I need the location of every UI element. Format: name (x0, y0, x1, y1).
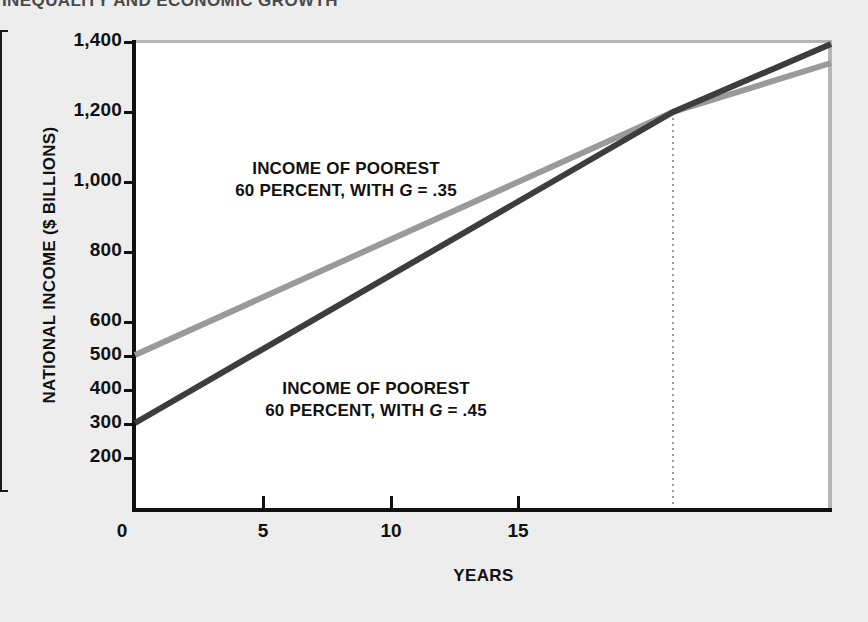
y-tick-label: 400 (2, 377, 122, 399)
y-tick-label: 300 (2, 411, 122, 433)
y-tick (124, 423, 135, 426)
y-tick-label: 600 (2, 309, 122, 331)
y-tick (124, 457, 135, 460)
y-tick (124, 111, 135, 114)
figure-title-text: INEQUALITY AND ECONOMIC GROWTH (0, 0, 868, 11)
y-tick-label: 1,000 (2, 169, 122, 191)
y-tick-label: 800 (2, 239, 122, 261)
annotation-g35-symbol: G (399, 181, 412, 200)
annotation-g45-line2-prefix: 60 PERCENT, WITH (265, 401, 429, 420)
y-tick-label: 200 (2, 445, 122, 467)
x-tick (390, 496, 393, 509)
y-tick-label: 500 (2, 343, 122, 365)
annotation-g35-line1: INCOME OF POOREST (252, 159, 440, 178)
annotation-g45-line2-suffix: = .45 (443, 401, 487, 420)
annotation-g45: INCOME OF POOREST 60 PERCENT, WITH G = .… (226, 378, 526, 423)
annotation-g35: INCOME OF POOREST 60 PERCENT, WITH G = .… (196, 158, 496, 203)
y-tick (124, 251, 135, 254)
x-tick (517, 496, 520, 509)
x-axis-title: YEARS (135, 566, 832, 586)
x-tick-label: 0 (72, 520, 172, 542)
y-tick-label: 1,200 (2, 99, 122, 121)
y-tick (124, 321, 135, 324)
x-tick (262, 496, 265, 509)
annotation-g35-line2-prefix: 60 PERCENT, WITH (235, 181, 399, 200)
annotation-g45-line1: INCOME OF POOREST (282, 379, 470, 398)
y-tick (124, 355, 135, 358)
y-tick (124, 181, 135, 184)
figure-title-cropped: INEQUALITY AND ECONOMIC GROWTH (0, 0, 868, 11)
plot-area (135, 40, 832, 510)
x-tick-label: 10 (341, 520, 441, 542)
y-tick-label: 1,400 (2, 29, 122, 51)
y-tick (124, 41, 135, 44)
x-tick-label: 15 (468, 520, 568, 542)
y-tick (124, 389, 135, 392)
chart-figure: INEQUALITY AND ECONOMIC GROWTH NATIONAL … (0, 0, 868, 622)
x-axis-line (132, 508, 832, 512)
x-tick-label: 5 (213, 520, 313, 542)
annotation-g45-symbol: G (429, 401, 442, 420)
annotation-g35-line2-suffix: = .35 (413, 181, 457, 200)
